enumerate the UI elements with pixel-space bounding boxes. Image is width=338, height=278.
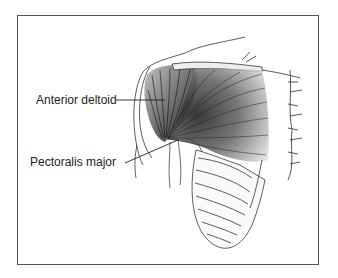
shoulder-anatomy-illustration — [0, 0, 338, 278]
label-pectoralis-major: Pectoralis major — [30, 155, 116, 169]
rib-cage — [192, 150, 265, 248]
label-anterior-deltoid: Anterior deltoid — [36, 93, 117, 107]
